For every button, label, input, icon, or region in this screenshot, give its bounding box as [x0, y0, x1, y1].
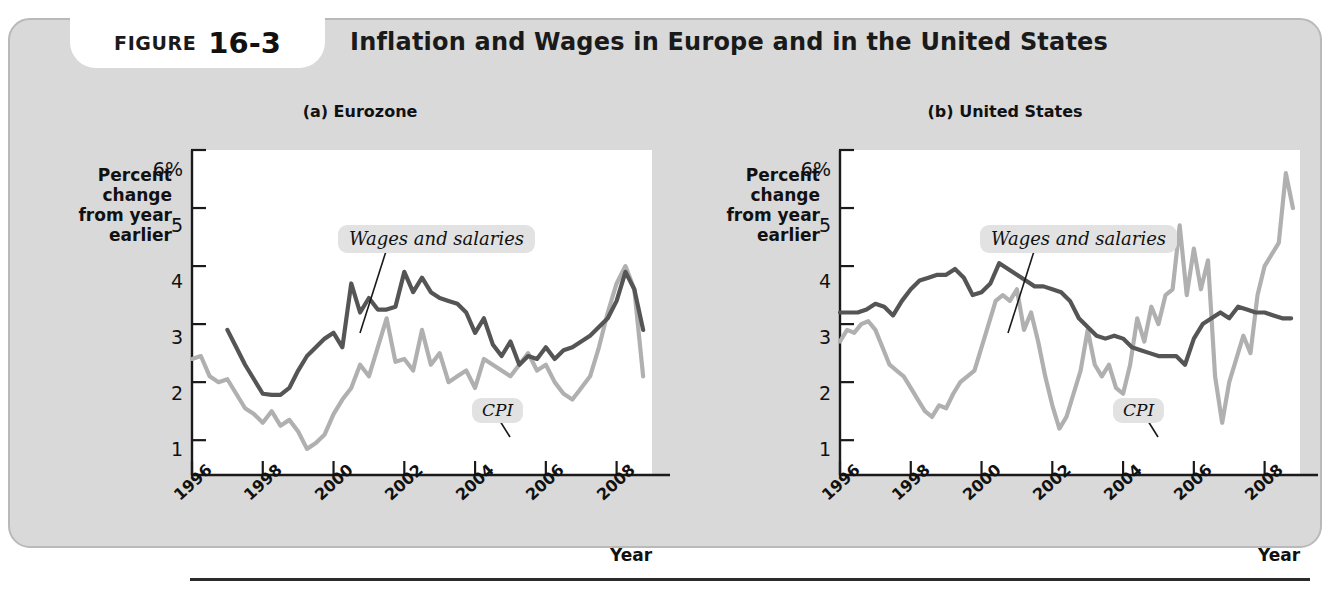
figure-title: Inflation and Wages in Europe and in the…	[350, 28, 1108, 56]
x-axis-caption-eurozone: Year	[610, 545, 652, 565]
annotation-cpi-eurozone: CPI	[472, 398, 523, 423]
figure-number-badge: FIGURE 16-3	[70, 18, 325, 68]
figure-label: FIGURE	[114, 32, 196, 54]
annotation-wages-united-states: Wages and salaries	[980, 225, 1177, 253]
y-caption-line-2: change	[22, 185, 172, 205]
panel-title-eurozone: (a) Eurozone	[210, 102, 510, 121]
annotation-cpi-united-states: CPI	[1113, 398, 1164, 423]
figure-card: FIGURE 16-3 Inflation and Wages in Europ…	[8, 18, 1322, 548]
chart-united-states	[818, 140, 1328, 490]
chart-eurozone	[170, 140, 680, 490]
annotation-wages-eurozone: Wages and salaries	[338, 225, 535, 253]
figure-number: 16-3	[208, 26, 281, 60]
x-axis-caption-united-states: Year	[1258, 545, 1300, 565]
panel-title-united-states: (b) United States	[840, 102, 1170, 121]
y-caption-line-2: change	[670, 185, 820, 205]
bottom-divider	[190, 578, 1310, 581]
